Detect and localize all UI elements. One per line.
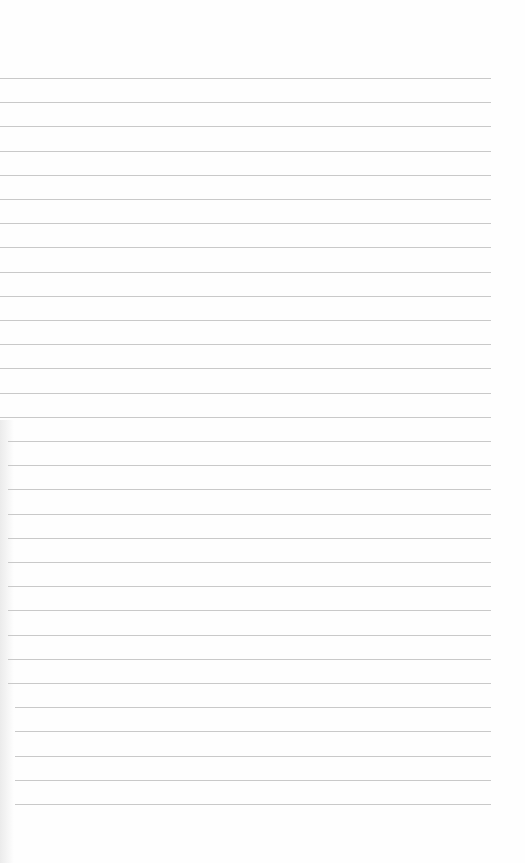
ruled-line [8, 562, 491, 563]
ruled-line [8, 441, 491, 442]
ruled-line [15, 804, 491, 805]
ruled-line [0, 102, 491, 103]
ruled-line [0, 320, 491, 321]
ruled-line [0, 296, 491, 297]
ruled-line [8, 514, 491, 515]
ruled-line [8, 610, 491, 611]
ruled-line [0, 368, 491, 369]
ruled-line [8, 586, 491, 587]
ruled-line [0, 344, 491, 345]
ruled-line [8, 659, 491, 660]
ruled-line [0, 272, 491, 273]
ruled-line [8, 489, 491, 490]
ruled-line [15, 731, 491, 732]
ruled-line [0, 247, 491, 248]
ruled-line [15, 780, 491, 781]
ruled-line [8, 538, 491, 539]
lined-paper [0, 0, 525, 863]
ruled-line [0, 151, 491, 152]
ruled-line [15, 707, 491, 708]
ruled-line [0, 417, 491, 418]
ruled-line [8, 635, 491, 636]
ruled-line [0, 126, 491, 127]
ruled-line [0, 78, 491, 79]
ruled-line [0, 223, 491, 224]
left-edge-shadow [0, 420, 14, 863]
ruled-line [0, 199, 491, 200]
ruled-line [8, 465, 491, 466]
ruled-line [8, 683, 491, 684]
ruled-line [0, 175, 491, 176]
ruled-line [0, 393, 491, 394]
ruled-line [15, 756, 491, 757]
